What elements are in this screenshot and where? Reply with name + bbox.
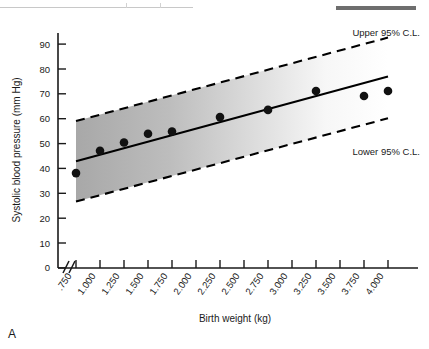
y-axis-title: Systolic blood pressure (mm Hg) xyxy=(11,77,22,222)
x-tick-label: 2.750 xyxy=(243,271,266,297)
figure-panel: 90 80 70 60 50 40 30 20 10 0 xyxy=(0,0,429,349)
x-tick-label: 3.000 xyxy=(267,271,290,297)
x-axis-tick-labels: .750 1.000 1.250 1.500 1.750 2.000 2.250… xyxy=(54,271,386,297)
data-point xyxy=(144,130,153,139)
data-point xyxy=(72,169,81,178)
x-tick-label: 3.250 xyxy=(291,271,314,297)
x-tick-label: .750 xyxy=(54,271,74,292)
x-tick-label: 1.250 xyxy=(99,271,122,297)
data-point xyxy=(360,92,369,101)
x-axis-ticks xyxy=(76,260,388,268)
x-tick-label: 2.500 xyxy=(219,271,242,297)
x-tick-label: 3.750 xyxy=(339,271,362,297)
y-tick-label: 40 xyxy=(39,163,50,174)
y-tick-label: 0 xyxy=(45,262,50,273)
data-point xyxy=(264,106,273,115)
y-tick-label: 70 xyxy=(39,88,50,99)
x-tick-label: 1.000 xyxy=(75,271,98,297)
x-axis-title-text: Birth weight (kg) xyxy=(199,313,271,324)
y-tick-label: 80 xyxy=(39,64,50,75)
y-axis-tick-labels: 90 80 70 60 50 40 30 20 10 0 xyxy=(39,39,50,274)
upper-cl-label: Upper 95% C.L. xyxy=(352,27,420,38)
data-point xyxy=(96,146,105,155)
y-axis xyxy=(58,33,66,268)
x-tick-label: 2.000 xyxy=(171,271,194,297)
data-point xyxy=(384,87,393,96)
annotation-lower-cl: Lower 95% C.L. xyxy=(352,146,420,157)
lower-cl-label: Lower 95% C.L. xyxy=(352,146,420,157)
y-tick-label: 10 xyxy=(39,238,50,249)
x-tick-label: 4.000 xyxy=(363,271,386,297)
y-tick-label: 20 xyxy=(39,213,50,224)
data-point xyxy=(120,138,129,147)
y-tick-label: 30 xyxy=(39,188,50,199)
scatter-plot: 90 80 70 60 50 40 30 20 10 0 xyxy=(0,0,429,349)
y-tick-label: 90 xyxy=(39,39,50,50)
x-tick-label: 2.250 xyxy=(195,271,218,297)
x-tick-label: 1.750 xyxy=(147,271,170,297)
data-point xyxy=(216,113,225,122)
panel-label: A xyxy=(8,327,16,341)
x-tick-label: 1.500 xyxy=(123,271,146,297)
y-tick-label: 50 xyxy=(39,138,50,149)
data-point xyxy=(312,87,321,96)
data-point xyxy=(168,127,177,136)
x-axis-title: Birth weight (kg) xyxy=(199,313,271,324)
y-axis-title-text: Systolic blood pressure (mm Hg) xyxy=(11,77,22,222)
y-tick-label: 60 xyxy=(39,113,50,124)
annotation-upper-cl: Upper 95% C.L. xyxy=(352,27,420,38)
x-tick-label: 3.500 xyxy=(315,271,338,297)
